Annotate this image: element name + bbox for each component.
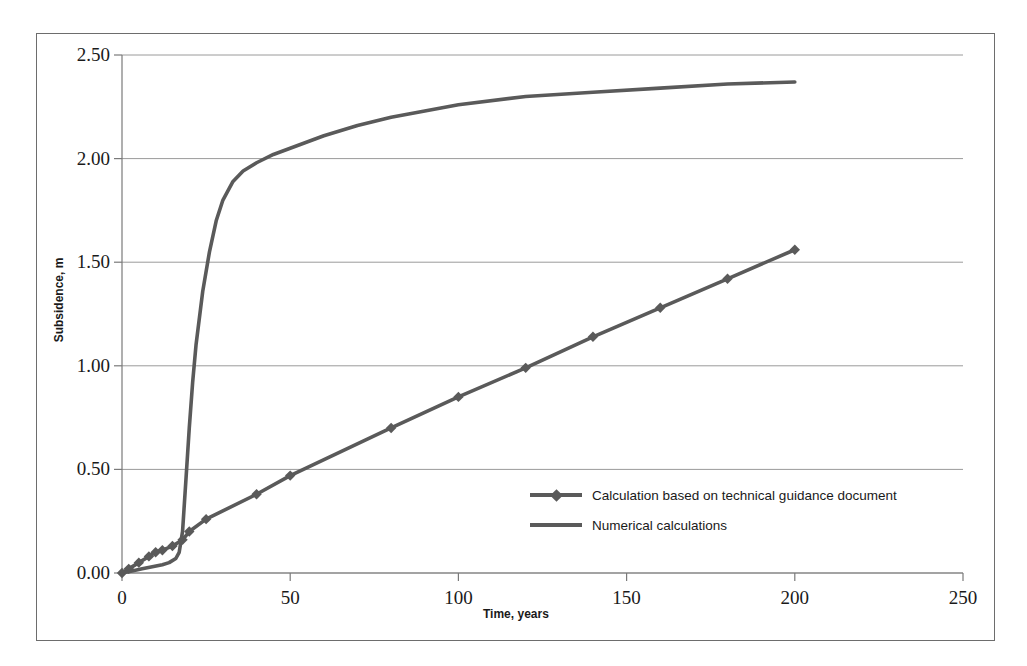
- data-point-marker: [655, 303, 665, 313]
- x-tick-label: 0: [117, 587, 127, 609]
- x-tick-label: 150: [612, 587, 641, 609]
- y-tick-label: 1.00: [44, 355, 110, 377]
- chart-plot-canvas: [0, 0, 1027, 666]
- x-tick-label: 50: [281, 587, 300, 609]
- y-tick-label: 2.00: [44, 148, 110, 170]
- legend-entry-calculation-guidance[interactable]: Calculation based on technical guidance …: [530, 480, 930, 510]
- legend-label-calculation-guidance: Calculation based on technical guidance …: [592, 488, 897, 503]
- chart-legend: Calculation based on technical guidance …: [530, 480, 930, 540]
- legend-entry-numerical-calculations[interactable]: Numerical calculations: [530, 510, 930, 540]
- legend-swatch-line-icon: [530, 517, 582, 533]
- legend-swatch-diamond-line-icon: [530, 487, 582, 503]
- y-tick-label: 0.00: [44, 562, 110, 584]
- data-point-marker: [790, 245, 800, 255]
- x-tick-label: 100: [444, 587, 473, 609]
- x-tick-label: 200: [781, 587, 810, 609]
- data-point-marker: [722, 274, 732, 284]
- legend-diamond-marker-icon: [550, 489, 563, 502]
- y-axis-title: Subsidence, m: [52, 258, 66, 343]
- x-tick-label: 250: [949, 587, 978, 609]
- x-axis-title: Time, years: [483, 607, 549, 621]
- legend-line-icon: [530, 523, 582, 527]
- y-tick-label: 0.50: [44, 458, 110, 480]
- y-tick-label: 2.50: [44, 44, 110, 66]
- legend-label-numerical-calculations: Numerical calculations: [592, 518, 727, 533]
